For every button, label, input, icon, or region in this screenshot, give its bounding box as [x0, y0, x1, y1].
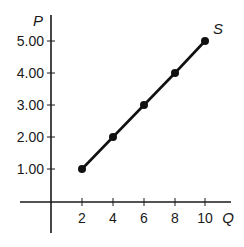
x-tick-labels: 2 4 6 8 10: [78, 210, 213, 226]
x-tick-label: 10: [197, 210, 213, 226]
y-axis-title: P: [33, 12, 43, 29]
y-tick-label: 5.00: [17, 33, 44, 49]
x-axis-title: Q: [222, 209, 234, 226]
x-tick-label: 4: [109, 210, 117, 226]
data-point: [201, 37, 209, 45]
data-point: [109, 133, 117, 141]
y-tick-label: 3.00: [17, 97, 44, 113]
supply-chart: 1.00 2.00 3.00 4.00 5.00 2 4 6 8 10 P Q …: [0, 0, 244, 247]
x-tick-label: 2: [78, 210, 86, 226]
y-tick-label: 1.00: [17, 161, 44, 177]
y-tick-label: 4.00: [17, 65, 44, 81]
x-tick-label: 8: [171, 210, 179, 226]
data-point: [171, 69, 179, 77]
y-tick-labels: 1.00 2.00 3.00 4.00 5.00: [17, 33, 44, 177]
supply-curve-label: S: [213, 20, 223, 37]
data-point: [78, 165, 86, 173]
y-tick-label: 2.00: [17, 129, 44, 145]
data-point: [140, 101, 148, 109]
x-tick-label: 6: [140, 210, 148, 226]
